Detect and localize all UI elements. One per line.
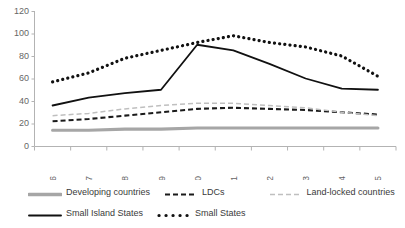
- series-line-small-states: [53, 36, 378, 82]
- y-tick-label: 80: [19, 51, 29, 61]
- x-tick-label: 2012: [265, 176, 275, 180]
- x-tick-label: 2009: [157, 176, 167, 180]
- legend-swatch-ldcs: [164, 186, 198, 197]
- x-tick-label: 2011: [229, 176, 239, 180]
- legend-label-small-island-states: Small Island States: [66, 208, 143, 218]
- legend-item-small-island-states[interactable]: Small Island States: [28, 202, 143, 223]
- y-tick-label: 120: [14, 6, 29, 16]
- legend-label-land-locked-countries: Land-locked countries: [307, 187, 395, 197]
- legend-label-ldcs: LDCs: [202, 187, 225, 197]
- y-tick-label: 100: [14, 28, 29, 38]
- legend-swatch-developing-countries: [28, 186, 62, 197]
- legend-swatch-land-locked-countries: [269, 186, 303, 197]
- legend-label-small-states: Small States: [195, 208, 246, 218]
- line-chart-svg: 020406080100120 200620072008200920102011…: [0, 0, 405, 180]
- data-series-group: [53, 36, 378, 131]
- legend-row-2: Small Island States Small States: [0, 202, 405, 223]
- legend-item-developing-countries[interactable]: Developing countries: [28, 181, 150, 202]
- legend-item-small-states[interactable]: Small States: [157, 202, 246, 223]
- x-tick-label: 2014: [337, 176, 347, 180]
- x-tick-label: 2013: [301, 176, 311, 180]
- series-line-developing-countries: [53, 128, 378, 130]
- legend-label-developing-countries: Developing countries: [66, 187, 150, 197]
- x-axis-tick-labels: 2006200720082009201020112012201320142015: [48, 176, 383, 180]
- x-tick-label: 2006: [48, 176, 58, 180]
- x-axis-tick-marks: [35, 147, 397, 151]
- chart-legend: Developing countries LDCs Land-locked co…: [0, 181, 405, 228]
- legend-swatch-small-states: [157, 207, 191, 218]
- x-tick-label: 2010: [193, 176, 203, 180]
- y-tick-label: 20: [19, 118, 29, 128]
- series-line-small-island-states: [53, 45, 378, 106]
- x-tick-label: 2007: [84, 176, 94, 180]
- legend-row-1: Developing countries LDCs Land-locked co…: [0, 181, 405, 202]
- chart-page: 020406080100120 200620072008200920102011…: [0, 0, 405, 228]
- y-tick-label: 60: [19, 73, 29, 83]
- legend-item-ldcs[interactable]: LDCs: [164, 181, 225, 202]
- plot-area: 020406080100120 200620072008200920102011…: [0, 0, 405, 180]
- y-tick-label: 0: [24, 141, 29, 151]
- series-line-land-locked-countries: [53, 103, 378, 115]
- x-tick-label: 2008: [120, 176, 130, 180]
- y-tick-label: 40: [19, 96, 29, 106]
- legend-item-land-locked-countries[interactable]: Land-locked countries: [269, 181, 395, 202]
- y-axis-tick-labels: 020406080100120: [14, 6, 29, 151]
- series-line-ldcs: [53, 108, 378, 122]
- x-tick-label: 2015: [373, 176, 383, 180]
- legend-swatch-small-island-states: [28, 207, 62, 218]
